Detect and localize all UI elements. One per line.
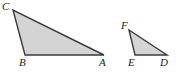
geometry-figure: C B A F E D: [0, 0, 180, 79]
vertex-label-f: F: [121, 20, 128, 31]
vertex-label-c: C: [2, 1, 9, 12]
triangle-abc-shape: [13, 10, 104, 55]
vertex-label-a: A: [99, 57, 106, 68]
vertex-label-b: B: [19, 57, 26, 68]
triangle-def-shape: [129, 30, 167, 55]
vertex-label-e: E: [128, 57, 135, 68]
triangles-diagram: [0, 0, 180, 79]
vertex-label-d: D: [160, 57, 168, 68]
